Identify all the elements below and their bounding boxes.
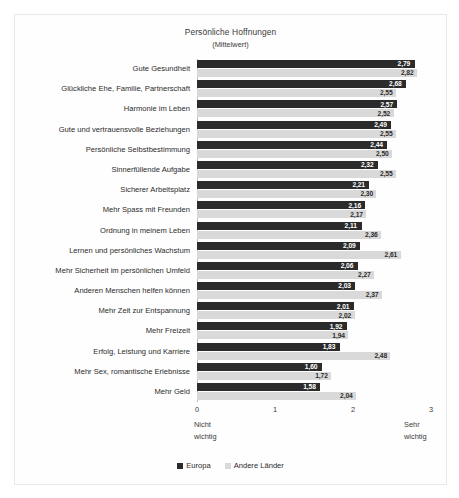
bar-andere [197, 352, 390, 360]
bar-row: Sicherer Arbeitsplatz2,212,30 [197, 180, 431, 200]
bar-value-label: 1,60 [305, 363, 318, 370]
bar-value-label: 1,83 [323, 343, 336, 350]
category-label: Harmonie im Leben [124, 100, 190, 117]
axis-caption-left-line1: Nicht [194, 419, 217, 431]
bar-row: Mehr Sex, romantische Erlebnisse1,601,72 [197, 362, 431, 382]
category-label: Lernen und persönliches Wachstum [69, 242, 190, 259]
bar-andere [197, 291, 382, 299]
x-tick-label: 2 [351, 405, 355, 414]
bar-value-label: 2,52 [378, 110, 391, 117]
category-label: Persönliche Selbstbestimmung [86, 141, 190, 158]
chart-title: Persönliche Hoffnungen [15, 27, 446, 37]
bar-value-label: 2,55 [380, 130, 393, 137]
bar-value-label: 2,09 [343, 242, 356, 249]
bar-row: Persönliche Selbstbestimmung2,442,50 [197, 140, 431, 160]
bar-value-label: 2,50 [376, 150, 389, 157]
bar-andere [197, 170, 396, 178]
bar-value-label: 2,03 [338, 282, 351, 289]
axis-caption-left-line2: wichtig [194, 431, 217, 443]
category-label: Anderen Menschen helfen können [74, 282, 190, 299]
bar-value-label: 2,57 [380, 101, 393, 108]
bar-value-label: 2,30 [360, 190, 373, 197]
bar-europa [197, 322, 347, 330]
bar-andere [197, 150, 392, 158]
axis-caption-right-line2: wichtig [404, 431, 427, 443]
category-label: Ordnung in meinem Leben [100, 222, 190, 239]
bar-row: Gute und vertrauensvolle Beziehungen2,49… [197, 120, 431, 140]
bar-value-label: 1,94 [332, 332, 345, 339]
bar-row: Sinnerfüllende Aufgabe2,322,55 [197, 160, 431, 180]
chart-legend: EuropaAndere Länder [15, 461, 446, 470]
x-axis-ticks: 0123 [197, 405, 431, 419]
category-label: Mehr Freizeit [146, 322, 190, 339]
bar-value-label: 1,58 [303, 383, 316, 390]
chart-subtitle: (Mittelwert) [15, 40, 446, 49]
bar-andere [197, 130, 396, 138]
bar-europa [197, 100, 397, 108]
legend-item[interactable]: Europa [177, 461, 211, 470]
category-label: Mehr Sicherheit im persönlichen Umfeld [55, 262, 190, 279]
bar-europa [197, 302, 354, 310]
legend-item[interactable]: Andere Länder [225, 461, 284, 470]
plot-area: Gute Gesundheit2,792,82Glückliche Ehe, F… [197, 59, 431, 402]
category-label: Gute und vertrauensvolle Beziehungen [59, 121, 190, 138]
bar-andere [197, 372, 331, 380]
bar-value-label: 2,48 [374, 352, 387, 359]
bar-europa [197, 383, 320, 391]
bar-row: Mehr Spass mit Freunden2,162,17 [197, 200, 431, 220]
bar-value-label: 2,06 [341, 262, 354, 269]
bar-europa [197, 242, 360, 250]
bar-europa [197, 201, 365, 209]
axis-caption-right: Sehr wichtig [404, 419, 427, 442]
bar-value-label: 2,82 [401, 69, 414, 76]
bar-andere [197, 392, 356, 400]
category-label: Sicherer Arbeitsplatz [120, 181, 190, 198]
bar-value-label: 2,27 [358, 271, 371, 278]
x-tick-label: 0 [195, 405, 199, 414]
bar-row: Mehr Zeit zur Entspannung2,012,02 [197, 301, 431, 321]
bar-row: Mehr Freizeit1,921,94 [197, 321, 431, 341]
legend-label: Europa [186, 461, 211, 470]
bar-europa [197, 141, 387, 149]
category-label: Sinnerfüllende Aufgabe [111, 161, 190, 178]
legend-swatch-icon [225, 463, 231, 469]
bar-value-label: 2,79 [398, 60, 411, 67]
bar-value-label: 2,16 [348, 202, 361, 209]
bar-andere [197, 331, 348, 339]
bar-value-label: 2,37 [366, 291, 379, 298]
bar-row: Anderen Menschen helfen können2,032,37 [197, 281, 431, 301]
bar-value-label: 2,36 [365, 231, 378, 238]
bar-andere [197, 69, 417, 77]
bar-andere [197, 251, 401, 259]
bar-europa [197, 343, 340, 351]
bar-row: Lernen und persönliches Wachstum2,092,61 [197, 241, 431, 261]
bar-europa [197, 363, 322, 371]
bar-row: Glückliche Ehe, Familie, Partnerschaft2,… [197, 79, 431, 99]
bar-value-label: 2,55 [380, 89, 393, 96]
bar-europa [197, 161, 378, 169]
bar-andere [197, 89, 396, 97]
bar-andere [197, 210, 366, 218]
bar-value-label: 2,55 [380, 170, 393, 177]
axis-caption-left: Nicht wichtig [194, 419, 217, 442]
bar-row: Erfolg, Leistung und Karriere1,832,48 [197, 342, 431, 362]
bar-andere [197, 231, 381, 239]
category-label: Mehr Zeit zur Entspannung [98, 302, 190, 319]
bar-value-label: 2,61 [385, 251, 398, 258]
bar-value-label: 1,72 [315, 372, 328, 379]
bar-europa [197, 60, 415, 68]
legend-swatch-icon [177, 463, 183, 469]
category-label: Glückliche Ehe, Familie, Partnerschaft [61, 80, 190, 97]
x-tick-label: 3 [429, 405, 433, 414]
bar-value-label: 2,21 [352, 181, 365, 188]
axis-caption-right-line1: Sehr [404, 419, 427, 431]
legend-label: Andere Länder [234, 461, 284, 470]
bar-europa [197, 121, 391, 129]
bar-row: Ordnung in meinem Leben2,112,36 [197, 221, 431, 241]
bar-value-label: 2,04 [340, 392, 353, 399]
bar-value-label: 2,01 [337, 303, 350, 310]
bar-value-label: 2,32 [361, 161, 374, 168]
bar-value-label: 2,11 [345, 222, 357, 229]
bar-value-label: 2,44 [370, 141, 383, 148]
bar-row: Mehr Sicherheit im persönlichen Umfeld2,… [197, 261, 431, 281]
